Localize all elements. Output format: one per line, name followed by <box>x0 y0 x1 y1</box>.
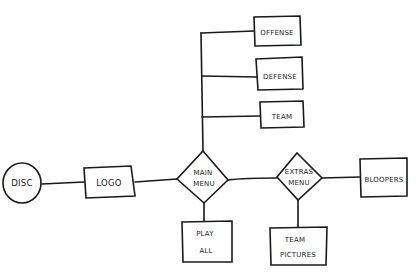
team-pictures-label-line2: PICTURES <box>280 251 316 259</box>
node-offense: OFFENSE <box>254 16 301 46</box>
logo-label: LOGO <box>96 178 122 188</box>
node-defense: DEFENSE <box>256 57 303 90</box>
edge-trunk-offense <box>201 31 254 33</box>
node-disc: DISC <box>3 163 41 203</box>
bloopers-label: BLOOPERS <box>364 176 403 184</box>
team-pictures-label-line1: TEAM <box>284 236 305 244</box>
play-all-label-line1: PLAY <box>196 230 214 238</box>
edge-disc-logo <box>42 182 84 184</box>
extras-menu-label-line1: EXTRAS <box>285 168 314 176</box>
team-label: TEAM <box>271 113 292 121</box>
play-all-label-line2: ALL <box>199 247 212 255</box>
node-play-all: PLAY ALL <box>182 221 232 262</box>
node-main-menu: MAIN MENU <box>177 151 228 203</box>
node-extras-menu: EXTRAS MENU <box>277 153 322 200</box>
disc-label: DISC <box>11 178 33 188</box>
edge-trunk-team <box>202 116 260 117</box>
edge-extras-menu-bloopers <box>322 177 360 178</box>
node-logo: LOGO <box>84 166 135 198</box>
offense-label: OFFENSE <box>260 29 294 37</box>
extras-menu-label-line2: MENU <box>288 179 310 187</box>
node-bloopers: BLOOPERS <box>360 158 407 197</box>
edge-trunk-defense <box>202 76 257 77</box>
dvd-menu-flowchart: DISC LOGO MAIN MENU OFFENSE DEFENSE TEAM… <box>0 0 418 275</box>
main-menu-label-line2: MENU <box>193 180 215 188</box>
edge-main-menu-extras-menu <box>228 178 277 180</box>
node-team: TEAM <box>260 101 304 128</box>
edge-logo-main-menu <box>135 179 177 182</box>
defense-label: DEFENSE <box>263 73 297 81</box>
main-menu-label-line1: MAIN <box>194 169 213 177</box>
edge-main-menu-trunk <box>201 33 203 151</box>
node-team-pictures: TEAM PICTURES <box>270 227 327 265</box>
